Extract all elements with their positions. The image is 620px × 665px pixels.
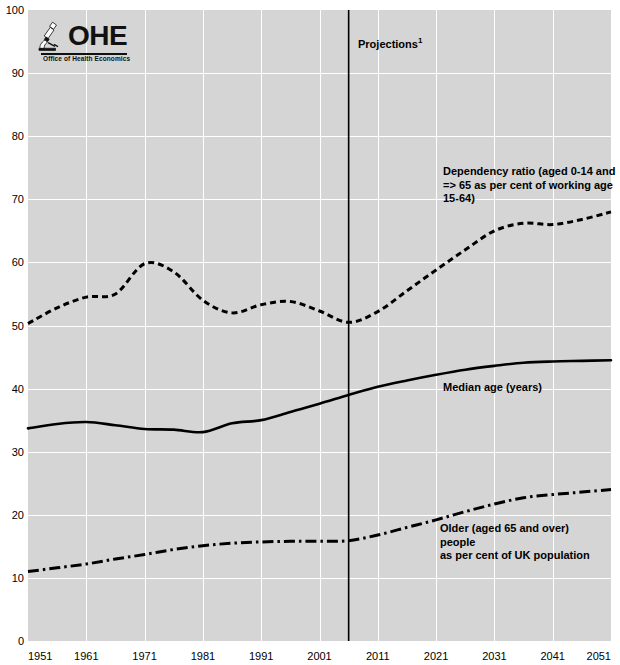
series-line: [28, 212, 611, 324]
population-trends-chart: 0102030405060708090100 19511961197119811…: [0, 0, 620, 665]
projections-annotation: Projections1: [358, 34, 422, 51]
older-annotation-line-2: people: [440, 536, 620, 550]
older-population-annotation: Older (aged 65 and over) people as per c…: [440, 522, 620, 563]
projections-text: Projections: [358, 38, 418, 50]
median-age-annotation: Median age (years): [443, 381, 542, 395]
projections-footnote-marker: 1: [418, 36, 422, 45]
ohe-logo-subtitle: Office of Health Economics: [43, 55, 130, 62]
dependency-ratio-annotation: Dependency ratio (aged 0-14 and => 65 as…: [443, 165, 618, 206]
older-annotation-line-3: as per cent of UK population: [440, 549, 620, 563]
microscope-icon: [35, 20, 69, 54]
ohe-logo: OHE Office of Health Economics: [33, 22, 128, 66]
ohe-logo-text: OHE: [68, 22, 127, 50]
series-layer: [0, 0, 620, 665]
older-annotation-line-1: Older (aged 65 and over): [440, 522, 620, 536]
series-line: [28, 360, 611, 432]
